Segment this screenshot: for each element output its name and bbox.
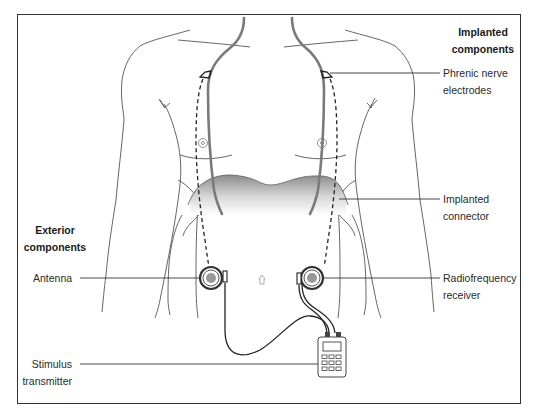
label-line: connector — [443, 208, 489, 225]
leader-lines — [80, 73, 440, 364]
label-line: electrodes — [443, 82, 508, 99]
label-line: Antenna — [33, 270, 72, 287]
label-phrenic-nerve-electrodes: Phrenic nerve electrodes — [443, 65, 508, 99]
label-stimulus-transmitter: Stimulus transmitter — [20, 356, 72, 390]
navel — [259, 275, 265, 284]
label-line: Implanted — [443, 191, 489, 208]
heading-line: components — [20, 239, 90, 256]
label-radiofrequency-receiver: Radiofrequency receiver — [443, 270, 517, 304]
right-receiver-disc — [297, 267, 323, 289]
stimulus-transmitter-device — [318, 332, 346, 377]
label-line: receiver — [443, 287, 517, 304]
implanted-components-heading: Implanted components — [448, 24, 518, 58]
label-line: Stimulus — [20, 356, 72, 373]
heading-line: Implanted — [448, 24, 518, 41]
label-antenna: Antenna — [33, 270, 72, 287]
nipples — [199, 139, 327, 148]
phrenic-electrode-cuffs — [200, 71, 332, 78]
implanted-leads — [196, 79, 337, 266]
exterior-components-heading: Exterior components — [20, 222, 90, 256]
label-line: transmitter — [20, 373, 72, 390]
label-line: Radiofrequency — [443, 270, 517, 287]
heading-line: Exterior — [20, 222, 90, 239]
label-line: Phrenic nerve — [443, 65, 508, 82]
left-antenna-disc — [200, 267, 227, 289]
heading-line: components — [448, 41, 518, 58]
label-implanted-connector: Implanted connector — [443, 191, 489, 225]
